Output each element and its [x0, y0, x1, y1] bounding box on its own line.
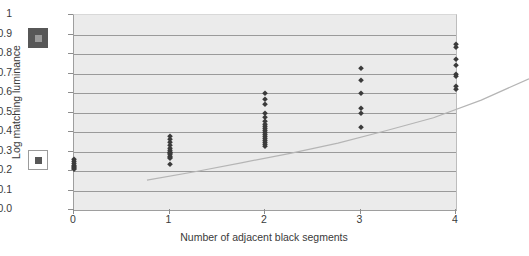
y-axis-tick-mark: [68, 131, 73, 132]
x-axis-tick-mark: [264, 209, 265, 214]
data-point: [262, 101, 267, 106]
y-axis-tick-label: 0.0: [0, 203, 12, 214]
y-axis-tick-mark: [68, 14, 73, 15]
y-axis-tick-label: 0.8: [0, 47, 12, 58]
gridline: [74, 171, 456, 172]
x-axis-title: Number of adjacent black segments: [73, 231, 455, 243]
dark-square-swatch: [28, 28, 48, 48]
x-axis-tick-mark: [360, 209, 361, 214]
dark-square-swatch-inner: [35, 35, 42, 42]
y-axis-tick-mark: [68, 151, 73, 152]
y-axis-tick-mark: [68, 34, 73, 35]
data-point: [358, 111, 363, 116]
gridline: [74, 191, 456, 192]
data-point: [358, 78, 363, 83]
data-point: [453, 62, 458, 67]
data-point: [453, 74, 458, 79]
y-axis-tick-mark: [68, 53, 73, 54]
data-point: [262, 90, 267, 95]
plot-area: [73, 14, 457, 211]
y-axis-tick-mark: [68, 112, 73, 113]
y-axis-tick-label: 0.3: [0, 145, 12, 156]
x-axis-tick-label: 0: [58, 213, 88, 225]
x-axis-tick-label: 1: [154, 213, 184, 225]
data-point: [358, 90, 363, 95]
gridline: [74, 152, 456, 153]
x-axis-tick-mark: [73, 209, 74, 214]
data-point: [358, 65, 363, 70]
y-axis-tick-label: 0.9: [0, 28, 12, 39]
light-square-swatch-inner: [35, 157, 42, 164]
y-axis-tick-label: 0.1: [0, 184, 12, 195]
x-axis-tick-label: 2: [249, 213, 279, 225]
y-axis-tick-mark: [68, 170, 73, 171]
y-axis-tick-label: 0.5: [0, 106, 12, 117]
y-axis-tick-label: 0.4: [0, 125, 12, 136]
x-axis-tick-mark: [455, 209, 456, 214]
data-point: [167, 162, 172, 167]
data-point: [453, 87, 458, 92]
data-point: [453, 56, 458, 61]
y-axis-tick-mark: [68, 73, 73, 74]
gridline: [74, 35, 456, 36]
data-point: [453, 45, 458, 50]
y-axis-tick-mark: [68, 190, 73, 191]
y-axis-tick-label: 0.6: [0, 86, 12, 97]
light-square-swatch: [28, 150, 48, 170]
x-axis-tick-label: 3: [345, 213, 375, 225]
y-axis-tick-label: 0.7: [0, 67, 12, 78]
gridline: [74, 54, 456, 55]
data-point: [358, 125, 363, 130]
y-axis-tick-label: 0.2: [0, 164, 12, 175]
x-axis-tick-label: 4: [440, 213, 470, 225]
x-axis-tick-mark: [169, 209, 170, 214]
gridline: [74, 74, 456, 75]
trendline: [147, 29, 529, 224]
y-axis-tick-mark: [68, 92, 73, 93]
y-axis-tick-label: 1: [0, 8, 12, 19]
